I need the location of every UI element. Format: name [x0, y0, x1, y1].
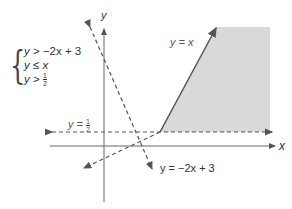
half-den: 2	[86, 126, 90, 133]
brace-icon: {	[10, 42, 25, 86]
x-axis-label: x	[279, 139, 285, 153]
ineq3-fraction: 1 2	[43, 72, 47, 87]
ineq3-op: >	[33, 73, 40, 85]
half-prefix: y =	[68, 118, 86, 130]
half-fraction: 12	[86, 118, 90, 133]
half-num: 1	[86, 118, 90, 126]
line-y-eq-neg2x-plus3	[90, 27, 152, 169]
label-y-eq-x: y = x	[170, 36, 194, 48]
label-y-eq-neg2x-plus3: y = −2x + 3	[160, 162, 215, 174]
ineq1-rhs: −2x + 3	[43, 45, 81, 57]
inequality-system: { y > −2x + 3 y ≤ x y > 1 2	[10, 44, 81, 86]
frac-den: 2	[43, 80, 47, 87]
ineq2-op: ≤	[33, 59, 39, 71]
ineq1-op: >	[33, 45, 40, 57]
frac-num: 1	[43, 72, 47, 80]
graph	[0, 0, 292, 209]
ineq2-rhs: x	[42, 59, 48, 71]
label-y-eq-half: y = 12	[68, 118, 90, 133]
y-axis-label: y	[101, 9, 107, 21]
